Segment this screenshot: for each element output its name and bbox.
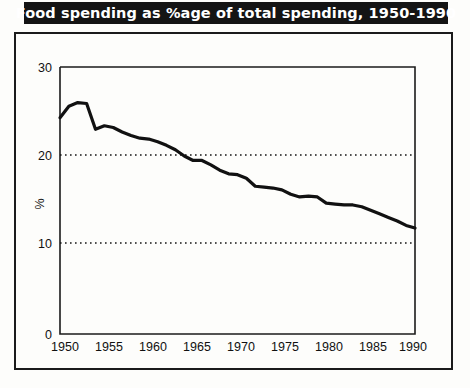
y-tick-20: 20 [38,149,52,163]
x-tick-1955: 1955 [95,340,123,354]
data-series-line [60,103,415,228]
x-tick-1960: 1960 [139,340,167,354]
x-tick-1980: 1980 [315,340,343,354]
x-tick-1950: 1950 [51,340,79,354]
y-tick-10: 10 [38,237,52,251]
x-tick-1990: 1990 [399,340,427,354]
x-tick-1975: 1975 [271,340,299,354]
x-tick-1970: 1970 [227,340,255,354]
x-tick-1985: 1985 [359,340,387,354]
chart-container: 30 20 10 0 % 1950 1955 1960 1965 1970 19… [0,0,470,388]
x-axis-labels: 1950 1955 1960 1965 1970 1975 1980 1985 … [51,340,427,354]
gridlines [60,155,415,243]
y-tick-30: 30 [38,61,52,75]
x-tick-1965: 1965 [183,340,211,354]
y-axis-title: % [33,198,47,209]
plot-frame [60,67,415,334]
line-chart: 30 20 10 0 % 1950 1955 1960 1965 1970 19… [0,0,470,388]
